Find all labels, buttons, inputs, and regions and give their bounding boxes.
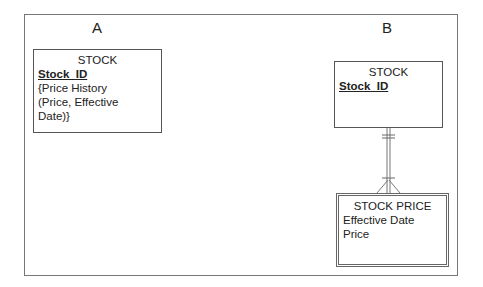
entity-stock-price: STOCK PRICE Effective Date Price [336, 193, 449, 267]
attribute: Price [343, 227, 446, 241]
entity-title: STOCK PRICE [339, 199, 446, 213]
attribute: Effective Date [343, 213, 446, 227]
